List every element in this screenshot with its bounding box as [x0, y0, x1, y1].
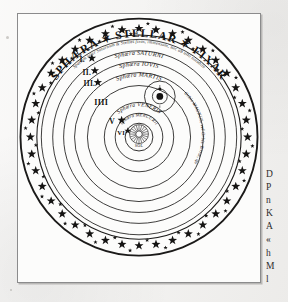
sphere-label-jupiter: Sphæra IOVIS: [118, 61, 159, 70]
fixed-star-small: [40, 194, 44, 198]
margin-text-line: l: [266, 273, 288, 286]
fixed-star-small: [83, 223, 87, 227]
fixed-star-small: [50, 61, 54, 65]
numeral-mercury: VI: [117, 129, 125, 136]
numeral-venus: V: [109, 117, 115, 126]
fixed-star-large: [26, 132, 35, 141]
fixed-star-large: [243, 132, 252, 141]
sphere-label-jupiter-path: Sphæra IOVIS: [118, 61, 159, 70]
fixed-star-small: [204, 213, 208, 217]
fixed-star-small: [58, 202, 62, 206]
fixed-star-small: [93, 240, 97, 244]
fixed-star-large: [242, 115, 251, 124]
fixed-star-large: [211, 209, 220, 218]
numeral-mars: III.: [83, 80, 95, 89]
moon-marker: [158, 88, 161, 91]
fixed-star-large: [47, 196, 56, 205]
fixed-star-small: [180, 30, 184, 34]
cosmos-diagram: SOL SPHÆRA ✶ STELLAR ✶ FIXAR Spatium int…: [18, 14, 260, 282]
scan-speck: [6, 36, 9, 39]
sphere-label-saturn: Sphæra SATURNI: [114, 50, 165, 60]
fixed-star-small: [77, 38, 81, 42]
fixed-star-small: [23, 126, 27, 130]
sun: SOL: [130, 125, 149, 149]
numeral-earth: IIII: [94, 98, 108, 107]
scanned-page: SOL SPHÆRA ✶ STELLAR ✶ FIXAR Spatium int…: [0, 0, 288, 302]
margin-text-line: «: [266, 233, 288, 246]
margin-text-line: M: [266, 260, 288, 273]
fixed-star-large: [238, 99, 247, 108]
fixed-star-small: [232, 95, 236, 99]
fixed-star-large: [38, 83, 47, 92]
right-margin-text-column: DPnKA«hMl: [266, 168, 288, 300]
fixed-star-small: [234, 75, 238, 79]
fixed-star-large: [27, 149, 36, 158]
fixed-star-large: [85, 229, 94, 238]
sphere-numerals: I. II. III. IIII V VI: [79, 55, 125, 136]
numeral-saturn: I.: [79, 55, 84, 64]
fixed-star-large: [31, 166, 40, 175]
sphere-label-mars: Sphæra MARTIS: [115, 72, 163, 82]
fixed-star-small: [32, 91, 36, 95]
fixed-star-large: [117, 240, 126, 249]
fixed-star-small: [225, 189, 229, 193]
sphere-label-saturn-path: Sphæra SATURNI: [114, 50, 165, 60]
fixed-star-small: [49, 81, 53, 85]
fixed-star-small: [247, 108, 251, 112]
fixed-star-large: [31, 99, 40, 108]
fixed-star-large: [231, 182, 240, 191]
fixed-star-small: [63, 221, 67, 225]
fixed-star-small: [163, 245, 167, 249]
fixed-star-small: [211, 48, 215, 52]
numeral-jupiter: II.: [82, 68, 91, 77]
fixed-star-small: [223, 209, 227, 213]
margin-text-line: n: [266, 194, 288, 207]
fixed-star-large: [38, 182, 47, 191]
fixed-star-large: [184, 229, 193, 238]
fixed-star-large: [71, 220, 80, 229]
fixed-star-small: [146, 21, 150, 25]
sun-label: SOL: [135, 143, 144, 148]
engraving-plate-frame: SOL SPHÆRA ✶ STELLAR ✶ FIXAR Spatium int…: [17, 13, 261, 283]
fixed-star-small: [26, 161, 30, 165]
copernican-system-svg: SOL SPHÆRA ✶ STELLAR ✶ FIXAR Spatium int…: [18, 14, 260, 282]
earth-globe: [156, 93, 163, 100]
marker-star-jupiter: [91, 66, 99, 74]
fixed-star-small: [128, 248, 132, 252]
fixed-star-large: [222, 196, 231, 205]
fixed-star-small: [110, 24, 114, 28]
fixed-star-large: [58, 209, 67, 218]
fixed-star-large: [238, 166, 247, 175]
margin-text-line: P: [266, 181, 288, 194]
margin-text-line: h: [266, 247, 288, 260]
fixed-star-large: [134, 241, 143, 250]
margin-text-line: A: [266, 220, 288, 233]
margin-text-line: D: [266, 168, 288, 181]
fixed-star-small: [250, 144, 254, 148]
sphere-label-mars-path: Sphæra MARTIS: [115, 72, 163, 82]
fixed-star-large: [198, 220, 207, 229]
fixed-star-large: [27, 115, 36, 124]
scan-speck: [10, 289, 12, 291]
fixed-star-small: [196, 232, 200, 236]
fixed-star-large: [151, 240, 160, 249]
fixed-star-large: [231, 83, 240, 92]
fixed-star-small: [242, 178, 246, 182]
margin-text-line: K: [266, 207, 288, 220]
fixed-star-large: [242, 149, 251, 158]
fixed-star-large: [168, 236, 177, 245]
fixed-star-large: [101, 236, 110, 245]
